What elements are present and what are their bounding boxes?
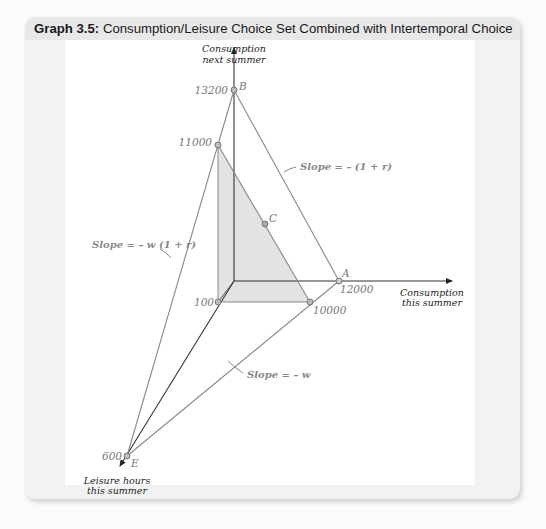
label-10000: 10000 [313,304,347,316]
point-c-marker [262,221,268,227]
horizontal-axis-label-2: this summer [402,297,464,308]
depth-axis-label-2: this summer [87,485,149,496]
label-11000: 11000 [179,136,213,148]
vertical-axis-label-1: Consumption [202,43,266,54]
axis-leisure [120,281,234,466]
point-11000-marker [215,142,221,148]
label-a: A [341,267,350,279]
point-b-marker [231,87,237,93]
slope-be-leader [160,249,171,258]
label-600: 600 [102,450,122,462]
label-100: 100 [194,296,214,308]
slope-ba-leader [284,167,296,172]
point-100-marker [215,299,221,305]
label-c: C [269,212,277,224]
slope-ba-label: Slope = – (1 + r) [300,161,392,172]
label-e: E [130,457,139,469]
label-b: B [238,80,247,92]
vertical-axis-label-2: next summer [202,54,267,65]
slope-ae-label: Slope = – w [247,369,311,380]
point-e-marker [124,453,130,459]
label-12000: 12000 [340,283,374,295]
label-13200: 13200 [195,84,229,96]
slope-be-label: Slope = – w (1 + r) [92,239,196,250]
chart-svg: Consumption next summer Consumption this… [0,0,546,529]
